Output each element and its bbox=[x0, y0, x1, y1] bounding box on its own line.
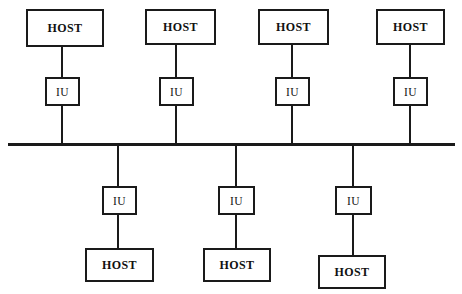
branch-upper-2-host-to-iu-link bbox=[175, 45, 177, 78]
branch-upper-1-iu-to-bus-link bbox=[61, 106, 63, 146]
branch-lower-2-bus-to-iu-link bbox=[235, 143, 237, 187]
branch-upper-2-iu-to-bus-link bbox=[175, 106, 177, 146]
branch-lower-1-bus-to-iu-link bbox=[117, 143, 119, 187]
branch-lower-2-iu-box: IU bbox=[218, 186, 255, 215]
branch-upper-4-iu-to-bus-link bbox=[409, 106, 411, 146]
branch-lower-1-iu-to-host-link bbox=[117, 215, 119, 249]
shared-bus-line bbox=[8, 143, 455, 146]
branch-lower-3-iu-box: IU bbox=[335, 186, 372, 215]
branch-upper-2-iu-box: IU bbox=[159, 77, 194, 106]
branch-upper-1-iu-box: IU bbox=[45, 77, 80, 106]
branch-upper-3-iu-to-bus-link bbox=[291, 106, 293, 146]
branch-lower-2-iu-to-host-link bbox=[235, 215, 237, 249]
branch-lower-3-bus-to-iu-link bbox=[352, 143, 354, 187]
branch-lower-3-host-box: HOST bbox=[318, 255, 386, 289]
branch-upper-4-iu-box: IU bbox=[393, 77, 428, 106]
branch-upper-4-host-to-iu-link bbox=[409, 45, 411, 78]
branch-lower-2-host-box: HOST bbox=[203, 248, 271, 282]
branch-upper-2-host-box: HOST bbox=[145, 9, 216, 45]
branch-upper-4-host-box: HOST bbox=[376, 9, 445, 45]
branch-upper-3-host-box: HOST bbox=[258, 9, 329, 45]
branch-upper-3-host-to-iu-link bbox=[291, 45, 293, 78]
branch-lower-1-host-box: HOST bbox=[85, 248, 154, 282]
branch-upper-1-host-box: HOST bbox=[26, 9, 104, 47]
branch-lower-3-iu-to-host-link bbox=[352, 215, 354, 256]
branch-upper-3-iu-box: IU bbox=[275, 77, 310, 106]
branch-upper-1-host-to-iu-link bbox=[61, 47, 63, 78]
branch-lower-1-iu-box: IU bbox=[102, 186, 137, 215]
bus-topology-diagram: HOSTIUHOSTIUHOSTIUHOSTIUIUHOSTIUHOSTIUHO… bbox=[0, 0, 462, 294]
